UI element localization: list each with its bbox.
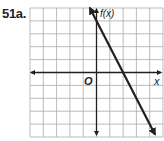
axes (31, 9, 161, 135)
series-layer (90, 8, 155, 134)
function-line-f (90, 8, 155, 134)
coordinate-plane: f(x) x O (0, 0, 164, 141)
origin-label: O (84, 75, 93, 87)
x-axis-label: x (153, 75, 160, 87)
y-axis-label: f(x) (100, 8, 114, 19)
